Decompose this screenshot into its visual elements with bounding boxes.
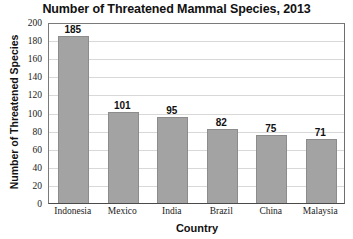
bar-value-label: 185 (43, 24, 103, 35)
y-tick-label: 40 (2, 163, 42, 173)
gridline (49, 41, 344, 42)
y-axis-tick-labels: 200180160140120100806040200 (0, 23, 45, 204)
y-tick-label: 80 (2, 127, 42, 137)
bar-value-label: 71 (290, 127, 350, 138)
bar (58, 36, 89, 203)
chart-title: Number of Threatened Mammal Species, 201… (0, 2, 353, 16)
gridline (49, 77, 344, 78)
x-tick-label: Malaysia (280, 206, 353, 216)
bar-value-label: 95 (142, 105, 202, 116)
gridline (49, 59, 344, 60)
y-tick-label: 160 (2, 54, 42, 64)
y-tick-label: 120 (2, 90, 42, 100)
bar (108, 112, 139, 203)
y-tick-label: 100 (2, 109, 42, 119)
bar (256, 135, 287, 203)
x-axis-title: Country (48, 222, 346, 234)
bar (157, 117, 188, 203)
y-tick-label: 140 (2, 72, 42, 82)
y-tick-label: 200 (2, 18, 42, 28)
y-tick-label: 20 (2, 181, 42, 191)
gridline (49, 95, 344, 96)
gridline (49, 150, 344, 151)
gridline (49, 186, 344, 187)
bar-chart: Number of Threatened Mammal Species, 201… (0, 0, 353, 239)
y-tick-label: 60 (2, 145, 42, 155)
bar (207, 129, 238, 203)
y-tick-label: 180 (2, 36, 42, 46)
bar (306, 139, 337, 203)
gridline (49, 168, 344, 169)
